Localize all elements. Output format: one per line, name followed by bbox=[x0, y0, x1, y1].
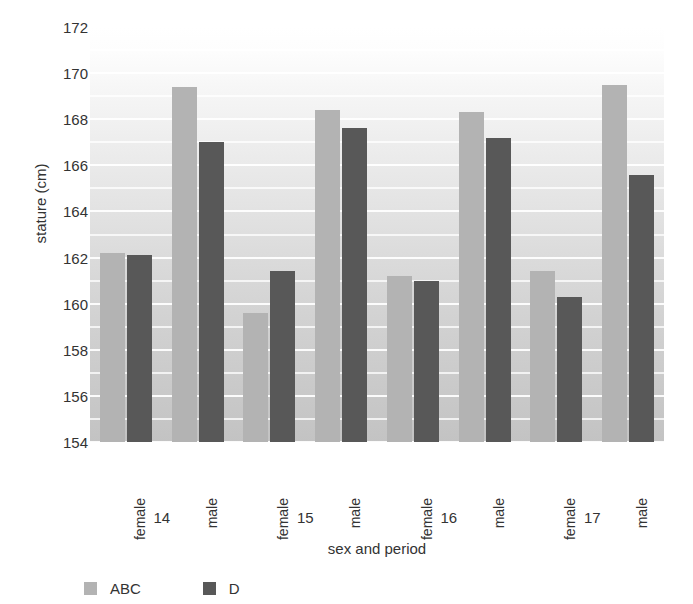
x-group-label-17: 17 bbox=[584, 509, 601, 526]
x-group-label-16: 16 bbox=[440, 509, 457, 526]
bar-d-15-male bbox=[342, 128, 367, 442]
x-axis-sex-labels: femalemalefemalemalefemalemalefemalemale bbox=[90, 442, 664, 504]
x-axis-title: sex and period bbox=[90, 540, 664, 557]
x-axis-period-labels: 14151617 bbox=[90, 509, 664, 533]
bar-d-14-male bbox=[199, 142, 224, 442]
bar-chart-figure: stature (cm) 172170168166164162160158156… bbox=[0, 0, 693, 604]
y-axis-tick-label: 154 bbox=[42, 435, 88, 450]
gridline-major bbox=[90, 72, 664, 74]
bar-abc-17-female bbox=[530, 271, 555, 442]
x-group-label-14: 14 bbox=[153, 509, 170, 526]
y-axis-tick-labels: 172170168166164162160158156154 bbox=[40, 0, 88, 604]
y-axis-tick-label: 164 bbox=[42, 204, 88, 219]
legend-label: ABC bbox=[110, 580, 141, 597]
legend: ABCD bbox=[84, 578, 302, 598]
bar-d-14-female bbox=[127, 255, 152, 442]
legend-swatch-icon bbox=[203, 582, 216, 595]
bar-d-17-male bbox=[629, 175, 654, 442]
y-axis-tick-label: 160 bbox=[42, 296, 88, 311]
y-axis-tick-label: 166 bbox=[42, 158, 88, 173]
bar-d-16-male bbox=[486, 138, 511, 442]
bar-abc-16-male bbox=[459, 112, 484, 442]
x-group-label-15: 15 bbox=[297, 509, 314, 526]
y-axis-tick-label: 156 bbox=[42, 388, 88, 403]
bar-abc-14-female bbox=[100, 253, 125, 442]
gridline-major bbox=[90, 27, 664, 28]
bar-abc-15-female bbox=[243, 313, 268, 442]
y-axis-tick-label: 168 bbox=[42, 112, 88, 127]
bar-d-17-female bbox=[557, 297, 582, 442]
legend-item-abc[interactable]: ABC bbox=[84, 580, 141, 597]
gridline-minor bbox=[90, 49, 664, 51]
bar-abc-15-male bbox=[315, 110, 340, 442]
bar-abc-17-male bbox=[602, 85, 627, 442]
bar-d-16-female bbox=[414, 281, 439, 442]
y-axis-tick-label: 170 bbox=[42, 66, 88, 81]
plot-area bbox=[90, 27, 664, 442]
legend-label: D bbox=[229, 580, 240, 597]
y-axis-tick-label: 172 bbox=[42, 20, 88, 35]
legend-item-d[interactable]: D bbox=[203, 580, 240, 597]
legend-swatch-icon bbox=[84, 582, 97, 595]
y-axis-tick-label: 162 bbox=[42, 250, 88, 265]
y-axis-tick-label: 158 bbox=[42, 342, 88, 357]
bar-abc-16-female bbox=[387, 276, 412, 442]
bar-d-15-female bbox=[270, 271, 295, 442]
bar-abc-14-male bbox=[172, 87, 197, 442]
